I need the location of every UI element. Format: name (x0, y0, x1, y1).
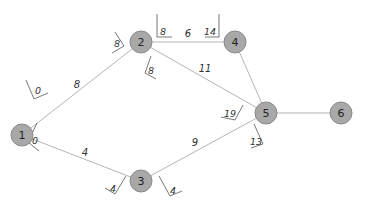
edge-weight-1-3: 4 (82, 147, 88, 158)
tag-n2-bottom: 8 (148, 65, 154, 76)
tag-n2-left: 8 (114, 38, 120, 49)
edge-weight-2-4: 6 (185, 28, 191, 39)
node-6[interactable]: 6 (330, 102, 352, 124)
edge-weight-3-5: 9 (192, 137, 198, 148)
tag-n1-top: 0 (35, 85, 41, 96)
edge-weight-1-2: 8 (74, 79, 80, 90)
tag-n5-left: 19 (224, 108, 236, 119)
node-1[interactable]: 1 (11, 124, 33, 146)
node-5-label: 5 (263, 107, 270, 120)
edge-2-5 (141, 42, 266, 113)
node-4[interactable]: 4 (224, 31, 246, 53)
network-diagram: 8 4 6 11 9 0 0 8 8 14 8 4 4 19 13 1 2 3 … (0, 0, 365, 205)
node-2[interactable]: 2 (130, 31, 152, 53)
node-3[interactable]: 3 (130, 170, 152, 192)
tag-n5-bottom: 13 (250, 136, 262, 147)
node-6-label: 6 (338, 107, 345, 120)
node-2-label: 2 (138, 36, 145, 49)
edge-4-5 (235, 42, 266, 113)
node-4-label: 4 (232, 36, 239, 49)
node-3-label: 3 (138, 175, 145, 188)
tag-n4-left: 14 (204, 26, 216, 37)
tag-n3-left: 4 (110, 183, 116, 194)
edge-weight-2-5: 11 (199, 63, 212, 74)
tag-n2-top: 8 (160, 26, 166, 37)
edge-3-5 (141, 113, 266, 181)
tag-n3-right: 4 (170, 185, 176, 196)
node-5[interactable]: 5 (255, 102, 277, 124)
node-1-label: 1 (19, 129, 26, 142)
edge-1-3 (22, 135, 141, 181)
